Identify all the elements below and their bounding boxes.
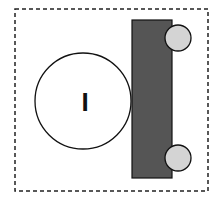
circle-label: I (81, 87, 88, 117)
top-wheel (165, 25, 191, 51)
bottom-wheel (165, 145, 191, 171)
diagram-canvas: I (0, 0, 220, 208)
